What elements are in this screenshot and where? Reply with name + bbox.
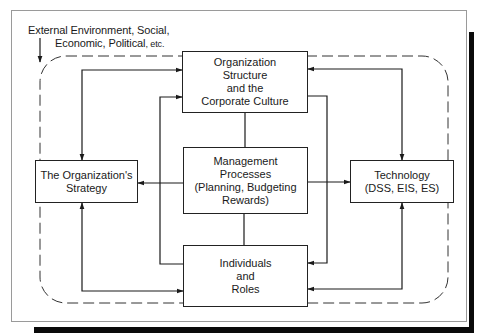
node-label-line: (Planning, Budgeting [194, 181, 296, 194]
environment-label: External Environment, Social, Economic, … [28, 24, 169, 51]
node-technology: Technology (DSS, EIS, ES) [350, 160, 454, 203]
node-label-line: Rewards) [222, 194, 269, 207]
node-label-line: Technology [374, 169, 430, 182]
edge-individuals-structure [160, 97, 183, 264]
node-label-line: Management [213, 155, 277, 168]
node-label-line: Structure [223, 69, 268, 82]
node-label-line: (DSS, EIS, ES) [365, 182, 440, 195]
environment-label-line2: Economic, Political, etc. [28, 37, 169, 51]
node-label-line: Individuals [220, 257, 272, 270]
node-label-line: and the [227, 82, 264, 95]
node-label-line: Strategy [66, 182, 107, 195]
edge-structure-strategy [82, 70, 182, 160]
node-label-line: Organization [214, 56, 276, 69]
node-label-line: Roles [231, 283, 259, 296]
node-individuals-roles: Individuals and Roles [183, 245, 308, 307]
node-organization-strategy: The Organization's Strategy [35, 160, 138, 203]
node-label-line: Processes [220, 168, 271, 181]
environment-label-line1: External Environment, Social, [28, 24, 169, 36]
node-management-processes: Management Processes (Planning, Budgetin… [183, 147, 308, 214]
node-label-line: The Organization's [41, 169, 133, 182]
edge-technology-individuals [308, 203, 402, 289]
edge-strategy-individuals [82, 203, 183, 291]
edge-structure-individuals [308, 96, 327, 263]
edge-structure-technology [308, 69, 402, 160]
node-label-line: Corporate Culture [201, 95, 288, 108]
node-organization-structure: Organization Structure and the Corporate… [182, 51, 308, 113]
node-label-line: and [236, 270, 254, 283]
